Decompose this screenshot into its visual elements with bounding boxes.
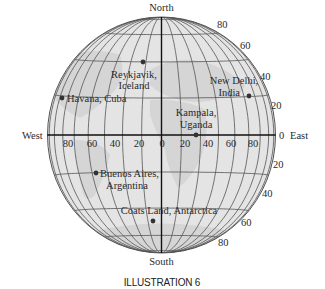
latitude-label-south: 40 — [262, 188, 273, 199]
location-dot-icon — [60, 96, 65, 101]
location-dot-icon — [247, 94, 252, 99]
figure-caption: ILLUSTRATION 6 — [124, 277, 201, 288]
location-havana: Havana, Cuba — [60, 93, 127, 104]
longitude-label: 40 — [203, 138, 214, 149]
latitude-label-north: 40 — [260, 71, 271, 82]
longitude-label: 20 — [180, 138, 191, 149]
label-east: East — [290, 130, 308, 141]
longitude-label: 40 — [110, 138, 121, 149]
location-label: New Delhi, — [210, 75, 258, 86]
location-label: India — [218, 87, 240, 98]
location-label: Argentina — [106, 180, 148, 191]
longitude-labels: 80604020020406080 — [63, 138, 259, 149]
location-label: Reykjavik, — [111, 69, 157, 80]
location-label: Kampala, — [176, 107, 217, 118]
label-east-zero: 0 — [279, 130, 284, 141]
location-label: Havana, Cuba — [67, 93, 127, 104]
latitude-label-south: 20 — [273, 159, 284, 170]
longitude-label: 20 — [134, 138, 145, 149]
location-dot-icon — [94, 171, 99, 176]
latitude-label-south: 80 — [218, 237, 229, 248]
latitude-label-north: 20 — [271, 100, 282, 111]
label-west: West — [22, 130, 43, 141]
label-south: South — [149, 256, 174, 267]
location-dot-icon — [141, 60, 146, 65]
location-dot-icon — [151, 219, 156, 224]
location-dot-icon — [194, 133, 199, 138]
label-north: North — [149, 2, 174, 13]
location-label: Coats Land, Antarctica — [121, 205, 218, 216]
longitude-label: 0 — [159, 138, 164, 149]
globe-illustration: Reykjavik,IcelandHavana, CubaNew Delhi,I… — [0, 0, 325, 289]
location-label: Uganda — [180, 119, 213, 130]
location-label: Buenos Aires, — [100, 168, 159, 179]
longitude-label: 60 — [226, 138, 237, 149]
longitude-label: 80 — [63, 138, 74, 149]
latitude-label-north: 60 — [240, 40, 251, 51]
longitude-label: 80 — [248, 138, 259, 149]
antarctica-shape — [90, 224, 235, 261]
latitude-label-south: 60 — [241, 217, 252, 228]
location-label: Iceland — [119, 80, 151, 91]
latitude-label-north: 80 — [217, 19, 228, 30]
longitude-label: 60 — [87, 138, 98, 149]
